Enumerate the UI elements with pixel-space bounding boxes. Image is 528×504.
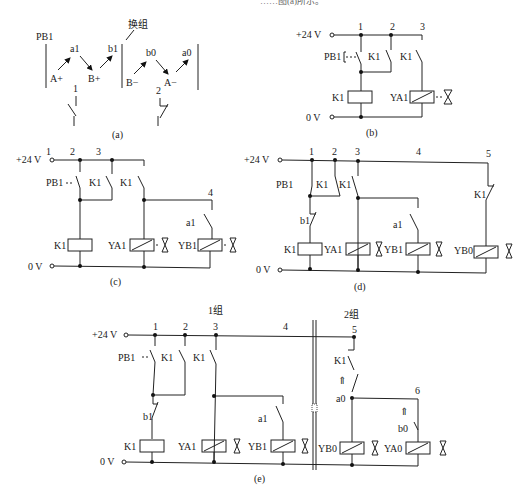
valve-icon <box>436 242 442 256</box>
limit-switch-a0: a0 <box>336 393 345 404</box>
panel-c-circuit: +24 V 1 2 3 PB1 K1 K1 4 a1 K1 YA1 YB1 <box>16 146 236 288</box>
contact-k1-ya1: K1 <box>400 51 412 62</box>
contact-k1-hold: K1 <box>368 51 380 62</box>
step-a-plus: A+ <box>50 73 63 84</box>
solenoid-ya0-label: YA0 <box>384 443 402 454</box>
node-3: 3 <box>96 146 101 157</box>
header-fragment: ……图(a)所示。 <box>260 0 324 6</box>
valve-icon <box>372 441 378 455</box>
node-1: 1 <box>358 21 363 32</box>
contact-k1-yb0: K1 <box>474 189 486 200</box>
pushbutton-pb1: PB1 <box>46 177 63 188</box>
group-1-label: 1组 <box>208 304 223 316</box>
panel-e-circuit: 1组 2组 +24 V 1 2 3 4 5 PB1 K1 K1 b1 <box>92 304 446 485</box>
contact-k1-nc: K1 <box>334 355 346 366</box>
node-5: 5 <box>352 324 357 335</box>
signal-a0: a0 <box>182 47 191 58</box>
line-2-label: 2 <box>156 85 161 96</box>
valve-icon <box>234 439 240 453</box>
pb1-label: PB1 <box>36 31 53 42</box>
panel-d-circuit: +24 V 1 2 3 4 5 PB1 K1 K1 b1 a1 K1 K1 YA… <box>244 146 512 293</box>
node-1: 1 <box>46 146 51 157</box>
limit-switch-b1: b1 <box>300 215 310 226</box>
signal-b0: b0 <box>146 47 156 58</box>
supply-zero-0v: 0 V <box>306 112 321 123</box>
line-1-label: 1 <box>73 83 78 94</box>
group-2-label: 2组 <box>344 308 359 320</box>
caption-b: (b) <box>366 127 378 139</box>
node-5: 5 <box>486 148 491 159</box>
relay-k1-label: K1 <box>332 92 344 103</box>
valve-icon <box>302 439 308 453</box>
limit-switch-a1: a1 <box>186 217 195 228</box>
supply-plus-24v: +24 V <box>92 329 118 340</box>
valve-icon <box>376 242 382 256</box>
node-2: 2 <box>183 321 188 332</box>
contact-k1-ya1: K1 <box>120 177 132 188</box>
supply-zero-0v: 0 V <box>256 264 271 275</box>
relay-k1-label: K1 <box>124 441 136 452</box>
node-2: 2 <box>70 146 75 157</box>
contact-k1-hold: K1 <box>316 179 328 190</box>
solenoid-yb1-label: YB1 <box>178 240 197 251</box>
limit-switch-a1: a1 <box>258 413 267 424</box>
relay-k1-coil <box>348 91 372 103</box>
panel-b-circuit: +24 V 1 2 3 PB1 K1 K1 K1 YA1 <box>296 21 452 139</box>
caption-a: (a) <box>112 129 123 141</box>
contact-k1-ya1: K1 <box>339 179 351 190</box>
node-3: 3 <box>420 21 425 32</box>
caption-d: (d) <box>354 281 366 293</box>
supply-zero-0v: 0 V <box>100 456 115 467</box>
solenoid-yb1-label: YB1 <box>384 244 403 255</box>
solenoid-ya1-label: YA1 <box>178 441 196 452</box>
node-3: 3 <box>213 321 218 332</box>
pushbutton-pb1: PB1 <box>118 352 135 363</box>
actuated-arrow-icon: ⇑ <box>400 406 408 417</box>
valve-icon <box>440 441 446 455</box>
valve-icon <box>162 238 168 252</box>
valve-icon <box>506 244 512 258</box>
caption-c: (c) <box>110 276 121 288</box>
separator-break <box>312 404 317 412</box>
relay-k1-label: K1 <box>284 244 296 255</box>
relay-k1-label: K1 <box>54 240 66 251</box>
actuated-arrow-icon: ⇑ <box>338 375 346 386</box>
node-1: 1 <box>309 146 314 157</box>
supply-plus-24v: +24 V <box>244 154 270 165</box>
limit-switch-b0: b0 <box>398 423 408 434</box>
circuit-figure: ……图(a)所示。 PB1 换组 A+ a1 B+ b1 B− b0 A− a0… <box>0 0 528 504</box>
supply-zero-0v: 0 V <box>28 261 43 272</box>
solenoid-yb1-label: YB1 <box>248 441 267 452</box>
pushbutton-pb1: PB1 <box>324 51 341 62</box>
step-a-minus: A− <box>164 77 177 88</box>
solenoid-ya1-label: YA1 <box>108 240 126 251</box>
valve-icon <box>444 90 452 104</box>
solenoid-ya1-label: YA1 <box>324 244 342 255</box>
panel-a-sequence-diagram: PB1 换组 A+ a1 B+ b1 B− b0 A− a0 1 2 (a) <box>36 18 198 141</box>
contact-k1-ya1: K1 <box>193 352 205 363</box>
contact-k1-hold: K1 <box>161 352 173 363</box>
node-3: 3 <box>355 146 360 157</box>
node-6: 6 <box>415 385 420 396</box>
signal-b1: b1 <box>108 43 118 54</box>
pushbutton-pb1: PB1 <box>276 179 293 190</box>
solenoid-ya1-label: YA1 <box>390 92 408 103</box>
node-4: 4 <box>416 146 421 157</box>
step-b-plus: B+ <box>88 73 101 84</box>
limit-switch-a1: a1 <box>393 219 402 230</box>
caption-e: (e) <box>254 473 265 485</box>
node-2: 2 <box>332 146 337 157</box>
node-4: 4 <box>208 187 213 198</box>
solenoid-yb0-label: YB0 <box>454 245 473 256</box>
node-2: 2 <box>390 21 395 32</box>
solenoid-yb0-label: YB0 <box>318 443 337 454</box>
node-1: 1 <box>153 321 158 332</box>
supply-plus-24v: +24 V <box>16 154 42 165</box>
group-switch-label: 换组 <box>128 18 148 30</box>
contact-k1-hold: K1 <box>89 177 101 188</box>
supply-plus-24v: +24 V <box>296 29 322 40</box>
node-4: 4 <box>283 321 288 332</box>
step-b-minus: B− <box>126 77 139 88</box>
valve-icon <box>230 238 236 252</box>
signal-a1: a1 <box>70 43 79 54</box>
